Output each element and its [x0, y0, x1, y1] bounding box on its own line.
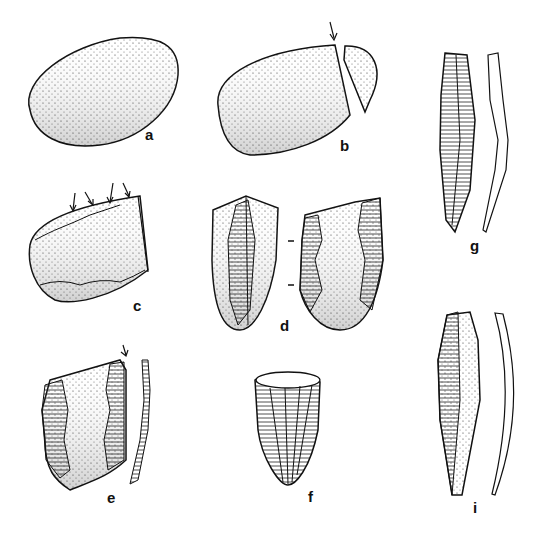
label-b: b — [340, 138, 349, 153]
label-a: a — [145, 127, 153, 142]
artifact-d — [212, 196, 383, 330]
artifact-b — [218, 22, 377, 155]
label-c: c — [133, 298, 141, 313]
artifact-c — [29, 183, 148, 302]
label-d: d — [280, 318, 289, 333]
stone-tools-illustration — [0, 0, 546, 534]
artifact-g — [440, 53, 508, 232]
artifact-e — [42, 345, 150, 490]
artifact-a — [29, 37, 178, 145]
label-e: e — [107, 490, 115, 505]
artifact-i — [438, 312, 514, 495]
artifact-f — [255, 372, 320, 485]
label-i: i — [473, 500, 477, 515]
label-g: g — [470, 238, 479, 253]
label-f: f — [308, 489, 313, 504]
